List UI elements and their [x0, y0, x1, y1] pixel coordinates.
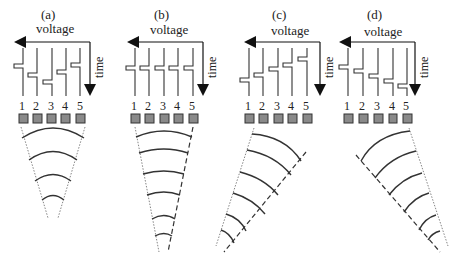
voltage-time-axes	[339, 36, 421, 96]
voltage-axis-label: voltage	[271, 23, 309, 38]
svg-text:2: 2	[145, 99, 151, 113]
voltage-time-axes	[244, 36, 326, 96]
transducer-elements	[131, 114, 198, 123]
voltage-axis-label: voltage	[150, 22, 188, 37]
time-axis-label: time	[205, 57, 219, 78]
arrow-left-icon	[14, 36, 26, 48]
time-axis-label: time	[92, 57, 106, 78]
arrow-left-icon	[127, 36, 139, 48]
svg-text:3: 3	[160, 99, 166, 113]
panel-label: (b)	[154, 7, 169, 22]
panel-label: (d)	[367, 7, 382, 22]
panel-c: (c) voltage time 1 2 3 4 5	[216, 7, 336, 252]
element-numbers: 1 2 3 4 5	[245, 99, 309, 113]
svg-text:4: 4	[288, 99, 294, 113]
panel-b: (b) voltage time 1 2 3 4 5	[126, 7, 219, 252]
arrow-left-icon	[244, 36, 256, 48]
element-numbers: 1 2 3 4 5	[19, 99, 83, 113]
beam-boundaries	[21, 127, 85, 218]
svg-text:4: 4	[174, 99, 180, 113]
svg-text:4: 4	[389, 99, 395, 113]
svg-text:3: 3	[374, 99, 380, 113]
wavefronts	[136, 131, 192, 236]
svg-text:1: 1	[19, 99, 25, 113]
arrow-left-icon	[339, 36, 351, 48]
arrow-down-icon	[84, 84, 96, 96]
svg-text:5: 5	[303, 99, 309, 113]
phased-array-diagram: (a) voltage time 1 2 3 4 5	[0, 0, 458, 260]
svg-text:5: 5	[403, 99, 409, 113]
svg-text:5: 5	[189, 99, 195, 113]
svg-text:1: 1	[344, 99, 350, 113]
element-numbers: 1 2 3 4 5	[344, 99, 409, 113]
pulse-traces	[14, 48, 80, 96]
voltage-axis-label: voltage	[364, 24, 402, 39]
transducer-elements	[245, 114, 312, 123]
voltage-time-axes	[127, 36, 209, 96]
pulse-traces	[126, 48, 193, 96]
svg-text:1: 1	[245, 99, 251, 113]
pulse-traces	[240, 48, 307, 96]
panel-label: (c)	[272, 7, 286, 22]
arrow-down-icon	[197, 84, 209, 96]
svg-text:2: 2	[359, 99, 365, 113]
svg-text:3: 3	[48, 99, 54, 113]
svg-text:1: 1	[131, 99, 137, 113]
voltage-time-axes	[14, 36, 96, 96]
arrow-down-icon	[314, 84, 326, 96]
time-axis-label: time	[322, 57, 336, 78]
element-numbers: 1 2 3 4 5	[131, 99, 195, 113]
svg-text:2: 2	[259, 99, 265, 113]
svg-text:3: 3	[274, 99, 280, 113]
wavefronts	[22, 128, 84, 200]
panel-a: (a) voltage time 1 2 3 4 5	[14, 7, 106, 218]
transducer-elements	[344, 114, 412, 123]
time-axis-label: time	[417, 57, 431, 78]
svg-text:4: 4	[62, 99, 68, 113]
voltage-axis-label: voltage	[36, 21, 74, 36]
svg-text:2: 2	[33, 99, 39, 113]
transducer-elements	[19, 114, 85, 123]
beam-boundaries	[216, 128, 306, 252]
panel-label: (a)	[41, 7, 55, 22]
arrow-down-icon	[409, 84, 421, 96]
svg-text:5: 5	[77, 99, 83, 113]
pulse-traces	[339, 48, 407, 96]
panel-d: (d) voltage time 1 2 3 4 5	[339, 7, 448, 252]
wavefronts	[221, 134, 301, 243]
